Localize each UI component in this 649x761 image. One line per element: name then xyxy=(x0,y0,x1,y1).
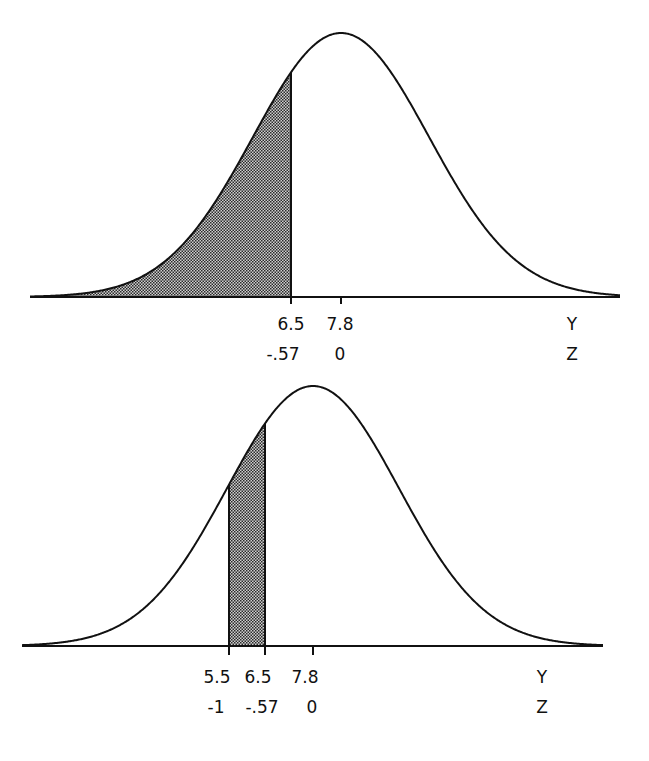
bottom-tick-label-z-neg-0.57: -.57 xyxy=(245,697,278,717)
bottom-axis-label-y: Y xyxy=(536,667,548,687)
top-tick-label-y-6.5: 6.5 xyxy=(277,314,304,334)
bottom-normal-chart: 5.5 6.5 7.8 -1 -.57 0 Y Z xyxy=(22,386,603,717)
top-tick-label-y-7.8: 7.8 xyxy=(326,314,353,334)
top-axis-label-z: Z xyxy=(566,344,578,364)
top-normal-curve xyxy=(30,33,620,296)
top-shaded-left-tail xyxy=(30,72,291,297)
bottom-tick-label-z-neg-1: -1 xyxy=(208,697,225,717)
top-normal-chart: 6.5 7.8 -.57 0 Y Z xyxy=(30,33,620,364)
top-axis-label-y: Y xyxy=(566,314,578,334)
diagram-canvas: 6.5 7.8 -.57 0 Y Z 5.5 6.5 7.8 -1 -.57 0… xyxy=(0,0,649,761)
bottom-tick-label-y-5.5: 5.5 xyxy=(203,667,230,687)
top-tick-label-z-0: 0 xyxy=(335,344,346,364)
bottom-tick-label-y-6.5: 6.5 xyxy=(244,667,271,687)
bottom-normal-curve xyxy=(22,386,603,645)
bottom-tick-label-y-7.8: 7.8 xyxy=(291,667,318,687)
top-tick-label-z-neg-0.57: -.57 xyxy=(266,344,299,364)
bottom-tick-label-z-0: 0 xyxy=(307,697,318,717)
bottom-axis-label-z: Z xyxy=(536,697,548,717)
bottom-shaded-interval xyxy=(229,424,265,647)
